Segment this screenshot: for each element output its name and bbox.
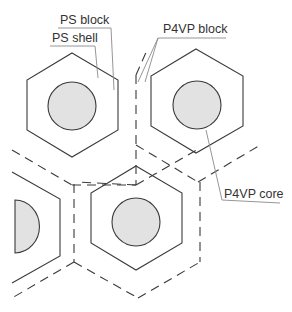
ps-shell-label: PS shell [52,31,98,45]
block-boundary [136,145,198,182]
block-boundary [12,150,72,185]
block-boundary [74,262,138,298]
p4vp-core-circle [48,82,96,130]
block-boundary [136,148,200,185]
p4vp-block-boundaries [12,48,262,298]
p4vp-core-circle [112,198,160,246]
block-boundary [198,144,262,182]
micelle-top-left [27,53,118,157]
p4vp-core-label: P4VP core [224,187,284,201]
p4vp-block-label: P4VP block [163,22,228,36]
micelle-left-partial [12,172,60,283]
micelle-hexagonal-packing-diagram: PS block PS shell P4VP block P4VP core [0,0,292,312]
block-boundary [136,48,148,75]
ps-block-label: PS block [60,13,110,27]
p4vp-core-half-circle [15,200,39,253]
block-boundary [12,262,74,298]
micelle-top-right [151,49,243,153]
block-boundary [138,262,200,298]
p4vp-core-circle [173,81,221,129]
